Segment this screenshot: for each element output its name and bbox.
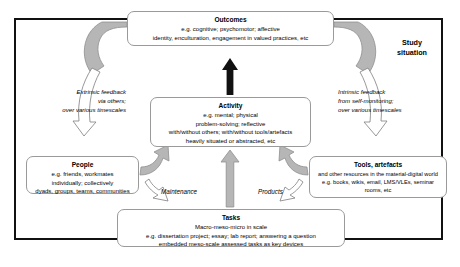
node-tools-title: Tools, artefacts [314, 160, 442, 170]
node-people-line-3: dyads, groups, teams, communities [31, 187, 134, 196]
intrinsic-feedback-line-1: Intrinsic feedback [338, 88, 385, 95]
node-tools[interactable]: Tools, artefacts and other resources in … [309, 156, 447, 198]
extrinsic-feedback-line-1: Extrinsic feedback [77, 88, 126, 95]
node-people-line-1: e.g. friends, workmates [31, 170, 134, 179]
node-outcomes-title: Outcomes [132, 15, 329, 25]
node-activity-line-1: e.g. mental; physical [155, 111, 306, 120]
extrinsic-feedback-label: Extrinsic feedback via others; over vari… [42, 87, 126, 114]
node-tools-line-1: and other resources in the material-digi… [314, 170, 442, 178]
diagram-canvas: .gfill { fill:#b6b6b6; stroke:#8f8f8f; s… [0, 0, 460, 267]
extrinsic-feedback-line-3: over various timescales [62, 106, 126, 113]
study-situation-label-line2: situation [397, 48, 427, 57]
node-outcomes[interactable]: Outcomes e.g. cognitive; psychomotor; af… [127, 11, 334, 46]
intrinsic-feedback-label: Intrinsic feedback from self-monitoring;… [338, 87, 434, 114]
node-tasks-line-3: embedded meso-scale assessed tasks as ke… [122, 240, 340, 249]
node-tasks[interactable]: Tasks Macro-meso-micro in scale e.g. dis… [117, 209, 345, 247]
node-tools-line-2: e.g. books, wikis, email, LMS/VLEs, semi… [314, 178, 442, 186]
extrinsic-feedback-line-2: via others; [98, 97, 126, 104]
node-tasks-title: Tasks [122, 213, 340, 223]
node-outcomes-line-2: identity, enculturation, engagement in v… [132, 34, 329, 43]
maintenance-label: Maintenance [161, 188, 197, 195]
study-situation-label-line1: Study [402, 38, 422, 47]
node-activity[interactable]: Activity e.g. mental; physical problem-s… [150, 97, 311, 147]
study-situation-label: Study situation [382, 38, 442, 57]
node-activity-line-4: heavily situated or abstracted, etc [155, 137, 306, 146]
node-activity-line-2: problem-solving; reflective [155, 120, 306, 129]
node-people-title: People [31, 160, 134, 170]
node-activity-line-3: with/without others; with/without tools/… [155, 128, 306, 137]
node-people-line-2: individually; collectively [31, 179, 134, 188]
node-outcomes-line-1: e.g. cognitive; psychomotor; affective [132, 25, 329, 34]
intrinsic-feedback-line-3: over various timescales [338, 106, 402, 113]
node-activity-title: Activity [155, 101, 306, 111]
node-tools-line-3: rooms, etc [314, 186, 442, 194]
node-people[interactable]: People e.g. friends, workmates individua… [26, 156, 139, 194]
intrinsic-feedback-line-2: from self-monitoring; [338, 97, 394, 104]
products-label: Products [258, 188, 283, 195]
node-tasks-line-1: Macro-meso-micro in scale [122, 223, 340, 232]
node-tasks-line-2: e.g. dissertation project; essay; lab re… [122, 232, 340, 241]
